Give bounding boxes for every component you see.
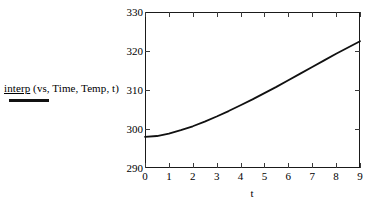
legend-series-args: (vs, Time, Temp, t) — [30, 82, 119, 94]
chart-figure: interp (vs, Time, Temp, t) 0123456789290… — [0, 0, 372, 203]
x-tick-bottom — [360, 163, 361, 168]
y-tick-label: 300 — [127, 123, 144, 135]
y-tick-label: 290 — [127, 162, 144, 174]
x-tick-label: 5 — [262, 170, 268, 182]
x-tick-top — [360, 12, 361, 17]
legend-label: interp (vs, Time, Temp, t) — [4, 82, 119, 94]
legend-series-name: interp — [4, 82, 30, 94]
x-tick-label: 2 — [190, 170, 196, 182]
plot-area: 0123456789290300310320330 t — [145, 12, 360, 168]
chart-legend: interp (vs, Time, Temp, t) — [4, 82, 142, 112]
x-tick-label: 6 — [286, 170, 292, 182]
curve-layer — [145, 12, 360, 168]
y-tick-label: 310 — [127, 84, 144, 96]
y-tick-label: 330 — [127, 6, 144, 18]
x-tick-label: 3 — [214, 170, 220, 182]
x-tick-label: 7 — [309, 170, 315, 182]
x-tick-label: 1 — [166, 170, 172, 182]
data-curve — [145, 41, 360, 137]
y-tick-label: 320 — [127, 45, 144, 57]
legend-line-swatch — [9, 99, 49, 102]
x-tick-label: 4 — [238, 170, 244, 182]
x-tick-label: 8 — [333, 170, 339, 182]
x-tick-label: 9 — [357, 170, 363, 182]
x-axis-title: t — [250, 187, 253, 199]
